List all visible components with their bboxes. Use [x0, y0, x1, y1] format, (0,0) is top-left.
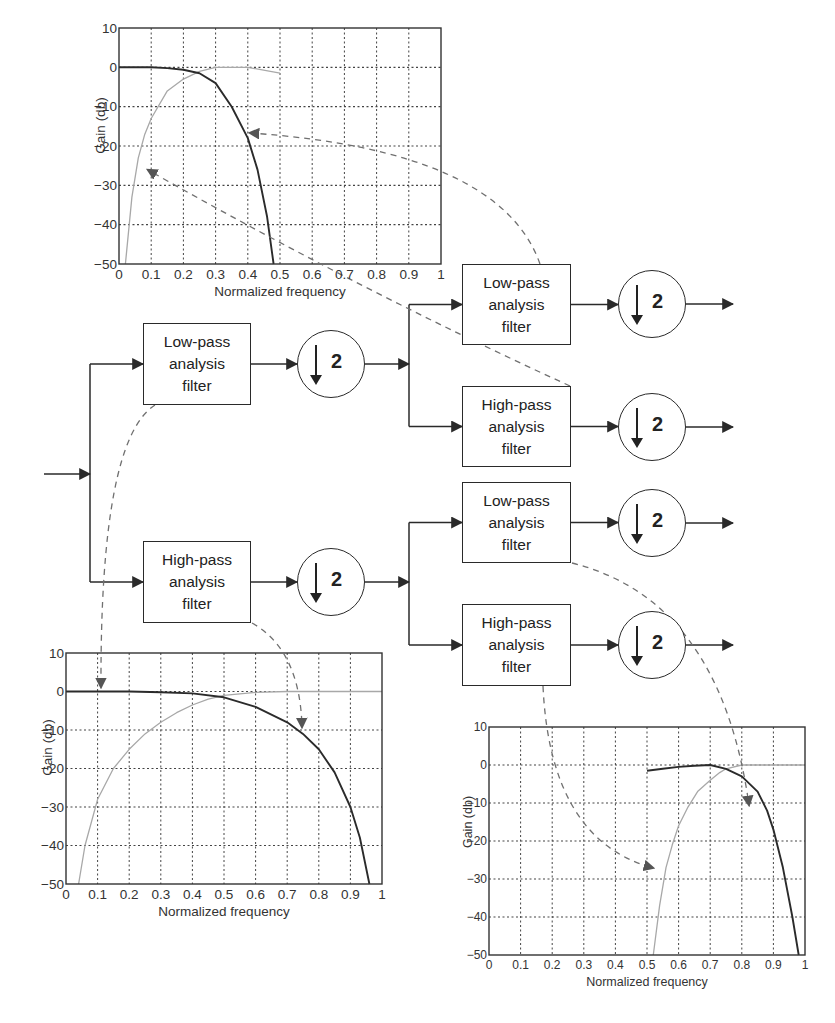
response-link-LL [250, 133, 540, 264]
x-tick-label: 0.3 [206, 267, 225, 282]
downsample-factor: 2 [331, 568, 342, 591]
filter-label: High-passanalysisfilter [482, 612, 552, 678]
y-tick-label: 10 [102, 21, 117, 36]
x-tick-label: 0.2 [174, 267, 193, 282]
y-tick-label: 0 [109, 60, 117, 75]
downsample-factor: 2 [652, 413, 663, 436]
filter-label: High-passanalysisfilter [482, 394, 552, 460]
x-tick-label: 0.2 [544, 958, 561, 972]
down-arrow-icon [636, 285, 638, 319]
y-tick-label: −40 [41, 838, 64, 853]
y-axis-label: Gain (db) [39, 720, 54, 776]
filter-label-line: Low-pass [483, 272, 549, 294]
down-arrow-icon [636, 408, 638, 442]
filter-label-line: filter [162, 593, 232, 615]
x-tick-label: 0.3 [575, 958, 592, 972]
response-curve [66, 692, 369, 885]
response-curve [647, 765, 799, 955]
filter-label-line: Low-pass [483, 490, 549, 512]
filter-label: High-passanalysisfilter [162, 549, 232, 615]
x-tick-label: 0.6 [303, 267, 322, 282]
x-tick-label: 0.4 [183, 887, 202, 902]
downsampler-HL: 2 [618, 489, 686, 557]
x-tick-label: 0.9 [765, 958, 782, 972]
downsample-factor: 2 [652, 509, 663, 532]
x-tick-label: 0.8 [733, 958, 750, 972]
downsample-factor: 2 [652, 631, 663, 654]
downsampler-HH: 2 [618, 611, 686, 679]
highpass-filter-block-H: High-passanalysisfilter [143, 541, 251, 623]
response-link-H [252, 623, 302, 727]
diagram-canvas [0, 0, 835, 1023]
x-tick-label: 1 [378, 887, 386, 902]
downsample-factor: 2 [652, 290, 663, 313]
response-curve [653, 765, 805, 955]
response-curve [79, 692, 382, 885]
down-arrow-icon [315, 345, 317, 379]
x-tick-label: 0.7 [702, 958, 719, 972]
filter-label-line: analysis [482, 634, 552, 656]
filter-label-line: filter [483, 534, 549, 556]
y-tick-label: −50 [467, 948, 487, 962]
x-tick-label: 0.5 [639, 958, 656, 972]
frequency-response-plot-1 [66, 653, 382, 884]
x-axis-label: Normalized frequency [158, 904, 289, 919]
filter-label-line: analysis [483, 512, 549, 534]
x-tick-label: 0.7 [278, 887, 297, 902]
x-tick-label: 0.4 [607, 958, 624, 972]
y-tick-label: −40 [467, 910, 487, 924]
filter-label: Low-passanalysisfilter [164, 331, 230, 397]
down-arrow-icon [636, 504, 638, 538]
y-tick-label: −30 [41, 800, 64, 815]
filter-label-line: Low-pass [164, 331, 230, 353]
x-tick-label: 1 [802, 958, 809, 972]
highpass-filter-block-LH: High-passanalysisfilter [462, 386, 571, 467]
down-arrow-icon [636, 626, 638, 660]
x-tick-label: 0.5 [271, 267, 290, 282]
x-tick-label: 0.6 [670, 958, 687, 972]
x-tick-label: 0.5 [215, 887, 234, 902]
filter-label-line: filter [482, 438, 552, 460]
x-tick-label: 0.1 [512, 958, 529, 972]
x-axis-label: Normalized frequency [214, 284, 345, 299]
frequency-response-plot-0 [119, 28, 441, 264]
y-tick-label: −30 [94, 178, 117, 193]
y-tick-label: 0 [56, 684, 64, 699]
x-tick-label: 0.1 [88, 887, 107, 902]
filter-label-line: analysis [164, 353, 230, 375]
downsampler-L: 2 [297, 330, 365, 398]
x-tick-label: 0.3 [151, 887, 170, 902]
filter-label-line: analysis [482, 416, 552, 438]
y-tick-label: 10 [49, 646, 64, 661]
x-tick-label: 0.9 [341, 887, 360, 902]
x-tick-label: 0.8 [367, 267, 386, 282]
filter-label: Low-passanalysisfilter [483, 272, 549, 338]
x-tick-label: 0.7 [335, 267, 354, 282]
downsampler-LH: 2 [618, 393, 686, 461]
x-tick-label: 0.8 [309, 887, 328, 902]
filter-label-line: High-pass [482, 394, 552, 416]
highpass-filter-block-HH: High-passanalysisfilter [462, 604, 571, 686]
y-tick-label: −30 [467, 872, 487, 886]
y-tick-label: 0 [480, 758, 487, 772]
x-axis-label: Normalized frequency [586, 975, 708, 989]
filter-label-line: filter [483, 316, 549, 338]
plots-layer [66, 28, 805, 955]
y-axis-label: Gain (db) [92, 97, 107, 153]
filter-label-line: analysis [162, 571, 232, 593]
y-tick-label: −50 [94, 257, 117, 272]
x-tick-label: 0.6 [246, 887, 265, 902]
figure-caption [0, 1012, 835, 1023]
filter-label-line: High-pass [162, 549, 232, 571]
filter-label-line: High-pass [482, 612, 552, 634]
lowpass-filter-block-L: Low-passanalysisfilter [143, 323, 251, 405]
downsampler-LL: 2 [618, 270, 686, 338]
filter-label: Low-passanalysisfilter [483, 490, 549, 556]
lowpass-filter-block-HL: Low-passanalysisfilter [462, 482, 571, 563]
y-tick-label: 10 [474, 720, 487, 734]
filter-label-line: analysis [483, 294, 549, 316]
lowpass-filter-block-LL: Low-passanalysisfilter [462, 264, 571, 345]
x-tick-label: 0.1 [142, 267, 161, 282]
y-tick-label: −50 [41, 877, 64, 892]
filter-label-line: filter [482, 656, 552, 678]
